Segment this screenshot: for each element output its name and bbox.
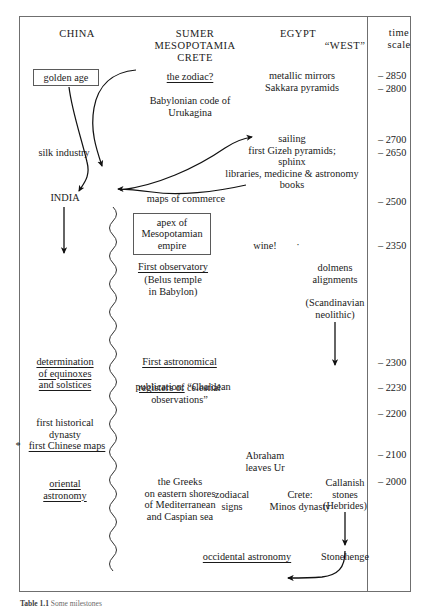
timescale-tick: – 2500 xyxy=(378,196,406,207)
first-publication-tail: registers of celestial observations” xyxy=(122,382,237,405)
metallic-mirrors-label: metallic mirrors Sakkara pyramids xyxy=(238,70,366,93)
timescale-tick: – 2350 xyxy=(378,240,406,251)
column-header-egypt: EGYPT xyxy=(248,28,348,40)
abraham-label: Abraham leaves Ur xyxy=(215,450,315,473)
stonehenge-label: Stonehenge xyxy=(313,551,377,563)
timescale-tick: – 2300 xyxy=(378,357,406,368)
chinese-maps-label: first Chinese maps xyxy=(22,440,112,452)
silk-industry-label: silk industry xyxy=(19,147,109,159)
timescale-tick: – 2200 xyxy=(378,408,406,419)
caption-label: Table 1.1 xyxy=(20,599,49,608)
timescale-tick: – 2700 xyxy=(378,134,406,145)
equinoxes-label: determination of equinoxes and solstices xyxy=(18,356,112,391)
callanish-label: Callanish stones (Hebrides) xyxy=(312,477,378,512)
column-header-timescale: time scale xyxy=(376,27,422,51)
sailing-block-label: sailing first Gizeh pyramids; sphinx lib… xyxy=(212,133,372,191)
apex-mesopotamian-box: apex of Mesopotamian empire xyxy=(133,213,211,255)
column-header-china: CHINA xyxy=(22,28,132,40)
apex-label: apex of Mesopotamian empire xyxy=(134,217,210,252)
caption-text: Some milestones xyxy=(51,599,102,608)
urukagina-label: Babylonian code of Urukagina xyxy=(128,95,252,118)
wine-label: wine! xyxy=(245,240,285,252)
first-observatory-label: First observatory xyxy=(128,261,218,273)
column-header-west: “WEST” xyxy=(310,40,380,52)
first-dynasty-label: first historical dynasty xyxy=(18,417,112,440)
timescale-tick: – 2100 xyxy=(378,449,406,460)
timescale-tick: – 2850 xyxy=(378,70,406,81)
first-publication-line1: First astronomical xyxy=(122,356,237,368)
oriental-astronomy-label: oriental astronomy xyxy=(18,478,112,501)
india-label: INDIA xyxy=(35,192,95,204)
timescale-tick: – 2230 xyxy=(378,382,406,393)
maps-of-commerce-label: maps of commerce xyxy=(126,193,246,205)
chinese-maps-marker: * xyxy=(14,440,22,452)
column-header-sumer: SUMER MESOPOTAMIA CRETE xyxy=(140,28,250,63)
zodiacal-signs-label: zodiacal signs xyxy=(203,489,261,512)
dolmens-label: dolmens alignments xyxy=(300,262,370,285)
timescale-tick: – 2650 xyxy=(378,147,406,158)
scandinavian-label: (Scandinavian neolithic) xyxy=(294,297,376,320)
wine-mark: · xyxy=(293,239,303,251)
belus-temple-label: (Belus temple in Babylon) xyxy=(128,274,218,297)
occidental-astronomy-label: occidental astronomy xyxy=(192,551,302,563)
golden-age-label: golden age xyxy=(44,72,89,84)
golden-age-box: golden age xyxy=(33,69,99,86)
figure-caption: Table 1.1 Some milestones xyxy=(20,599,102,608)
timescale-tick: – 2800 xyxy=(378,83,406,94)
zodiac-label: the zodiac? xyxy=(140,71,240,83)
timescale-tick: – 2000 xyxy=(378,476,406,487)
